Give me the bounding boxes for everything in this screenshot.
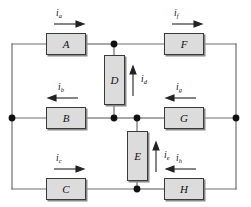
current-subscript-i-e: e	[167, 154, 170, 161]
current-subscript-i-a: a	[59, 12, 62, 19]
wiring-layer	[0, 0, 251, 207]
current-label-i-e: ie	[164, 151, 170, 161]
current-subscript-i-f: f	[177, 12, 179, 19]
element-label-c: C	[62, 184, 69, 195]
element-box-f[interactable]: F	[164, 33, 204, 55]
current-label-i-f: if	[174, 9, 178, 19]
element-box-g[interactable]: G	[164, 107, 204, 129]
element-label-h: H	[180, 184, 188, 195]
node-bottom-center	[134, 186, 141, 193]
current-label-i-h: ih	[176, 154, 182, 164]
element-box-c[interactable]: C	[46, 178, 86, 200]
current-subscript-i-h: h	[179, 157, 182, 164]
element-box-d[interactable]: D	[104, 55, 125, 105]
current-subscript-i-g: g	[179, 86, 182, 93]
element-label-b: B	[63, 113, 70, 124]
element-label-e: E	[134, 151, 141, 162]
arrow-i-b	[48, 95, 78, 101]
node-mid-e	[134, 115, 141, 122]
current-subscript-i-b: b	[61, 86, 64, 93]
element-box-b[interactable]: B	[46, 107, 86, 129]
current-subscript-i-c: c	[59, 157, 62, 164]
circuit-diagram: A F B G C H D E ia if ib ig ic ih id ie	[0, 0, 251, 207]
current-label-i-a: ia	[56, 9, 62, 19]
element-label-d: D	[111, 75, 119, 86]
element-label-g: G	[180, 113, 188, 124]
element-box-h[interactable]: H	[164, 178, 204, 200]
node-top-center	[111, 41, 118, 48]
arrow-i-d	[130, 66, 136, 96]
current-label-i-g: ig	[176, 83, 182, 93]
current-subscript-i-d: d	[144, 78, 147, 85]
node-right-mid	[233, 115, 240, 122]
element-box-e[interactable]: E	[127, 131, 148, 181]
arrow-i-g	[166, 95, 196, 101]
node-left-mid	[9, 115, 16, 122]
current-label-i-b: ib	[58, 83, 64, 93]
element-box-a[interactable]: A	[46, 33, 86, 55]
node-mid-d	[111, 115, 118, 122]
arrow-i-a	[54, 21, 84, 27]
element-label-f: F	[181, 39, 188, 50]
current-label-i-d: id	[141, 75, 147, 85]
element-label-a: A	[63, 39, 70, 50]
arrow-i-c	[54, 166, 84, 172]
arrow-i-e	[153, 142, 159, 172]
current-label-i-c: ic	[56, 154, 62, 164]
arrow-i-h	[166, 166, 196, 172]
arrow-i-f	[172, 21, 202, 27]
